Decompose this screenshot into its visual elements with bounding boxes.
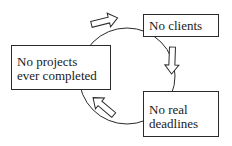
arrow-projects-to-clients-icon [90,11,120,31]
node-no-clients: No clients [143,14,219,37]
node-label-line-1: No real [149,103,213,117]
node-label-line-2: deadlines [149,117,213,131]
node-label: No clients [149,19,213,33]
node-label-line-1: No projects [17,55,105,69]
arrow-deadlines-to-projects-icon [89,92,119,120]
node-label-line-2: ever completed [17,69,105,83]
node-no-real-deadlines: No real deadlines [143,91,219,137]
node-no-projects-ever-completed: No projects ever completed [11,45,111,90]
arrow-clients-to-deadlines-icon [165,47,180,74]
